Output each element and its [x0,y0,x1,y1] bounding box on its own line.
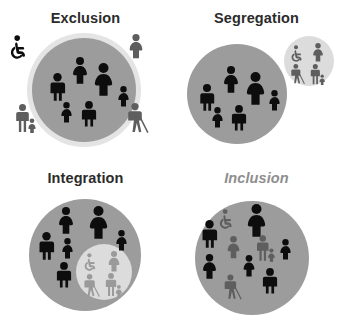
figure-person-with-child-icon [309,64,326,85]
figure-person-adult-woman-large-icon [243,72,268,105]
figure-person-child-icon [114,230,129,251]
figure-person-adult-woman-icon [70,57,90,84]
figure-person-with-cane-icon [222,274,243,300]
panel-title-exclusion: Exclusion [0,10,171,26]
figure-person-child-icon [60,238,75,259]
figure-person-adult-man-icon [37,232,56,260]
figure-person-child-icon [230,105,248,131]
figure-person-child-icon [267,90,282,111]
figure-person-with-child-icon [104,273,123,297]
figure-person-child-icon [80,101,98,127]
figure-person-adult-man-icon [55,262,73,288]
figure-person-with-child-icon [255,235,276,262]
figure-person-adult-man-icon [48,73,67,101]
panel-inclusion: Inclusion [171,160,342,320]
figure-person-adult-woman-large-icon [244,204,269,237]
panel-title-segregation: Segregation [171,10,342,26]
panel-title-integration: Integration [0,170,171,186]
figure-person-child-icon [59,102,74,123]
figure-person-adult-man-icon [200,220,219,248]
figure-person-adult-woman-icon [311,43,325,62]
panel-integration: Integration [0,160,171,320]
figure-person-adult-woman-icon [221,66,241,93]
figure-person-adult-woman-icon [106,251,122,272]
figure-wheelchair-user-icon [9,35,31,59]
panel-exclusion: Exclusion [0,0,171,160]
figure-person-adult-woman-icon [127,34,145,59]
figure-person-adult-woman-icon [225,236,242,259]
figure-person-with-cane-icon [82,274,101,297]
figure-person-child-icon [278,239,293,260]
figure-wheelchair-user-icon [290,45,306,62]
figure-person-adult-man-icon [261,268,279,294]
figure-person-with-child-icon [14,104,37,133]
panel-title-inclusion: Inclusion [171,170,342,186]
figure-person-child-icon [210,107,225,128]
figure-person-child-icon [241,255,257,277]
figure-person-adult-woman-icon [56,207,76,234]
figure-person-with-cane-icon [289,64,306,84]
figure-person-with-cane-icon [125,103,150,133]
figure-wheelchair-user-icon [83,253,100,271]
panel-segregation: Segregation [171,0,342,160]
inclusion-diagram: Exclusion [0,0,342,321]
figure-wheelchair-user-icon [218,209,237,229]
figure-person-adult-woman-large-icon [91,63,116,96]
figure-person-adult-woman-icon [200,254,219,279]
figure-person-adult-woman-large-icon [86,206,111,239]
